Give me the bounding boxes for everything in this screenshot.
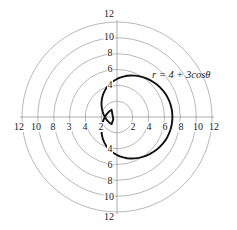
tick-label-top-12: 12 [104, 9, 115, 19]
tick-label-left-2: 2 [98, 122, 104, 132]
tick-label-bottom-6: 6 [107, 160, 113, 170]
tick-label-right-2: 2 [130, 122, 136, 132]
tick-label-left-4: 4 [82, 122, 88, 132]
tick-label-bottom-4: 4 [107, 144, 113, 154]
tick-label-left-6: 3 [66, 122, 72, 132]
tick-label-right-12: 12 [209, 122, 220, 132]
tick-label-left-10: 10 [31, 122, 42, 132]
tick-label-right-4: 4 [146, 122, 152, 132]
tick-label-right-6: 6 [162, 122, 168, 132]
tick-label-top-6: 6 [107, 64, 113, 74]
tick-label-right-10: 10 [193, 122, 204, 132]
tick-label-top-8: 8 [107, 48, 113, 58]
tick-label-bottom-10: 10 [104, 192, 115, 202]
polar-plot: 2 4 6 8 10 12 2 4 3 8 10 12 4 6 8 10 12 … [0, 0, 237, 230]
tick-label-bottom-12: 12 [104, 212, 115, 222]
tick-label-right-8: 8 [178, 122, 184, 132]
equation-label: r = 4 + 3cosθ [152, 69, 210, 80]
tick-label-left-8: 8 [50, 122, 56, 132]
tick-label-top-4: 4 [107, 80, 113, 90]
axis-lines [20, 20, 214, 214]
tick-label-left-12: 12 [14, 122, 25, 132]
tick-label-bottom-8: 8 [107, 176, 113, 186]
tick-label-top-10: 10 [104, 32, 115, 42]
polar-grid-and-curve [0, 0, 237, 230]
